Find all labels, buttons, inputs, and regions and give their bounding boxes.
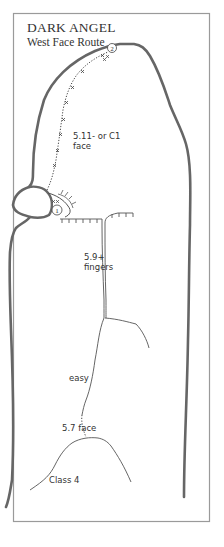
route-title: DARK ANGEL (27, 20, 116, 35)
route-subtitle: West Face Route (27, 35, 105, 49)
pitch-number-2: 2 (110, 45, 113, 52)
easy-ramp (82, 318, 104, 415)
topo-diagram: 2 1 (0, 0, 224, 547)
pitch-number-1: 1 (55, 207, 59, 215)
grade-crack-line1: 5.9+ (84, 252, 113, 262)
route-pitch-2 (47, 52, 108, 190)
roof-left (60, 219, 102, 226)
grade-label-easy: easy (69, 373, 89, 383)
grade-label-crack: 5.9+ fingers (84, 252, 113, 272)
roof-right (105, 213, 133, 223)
grade-p2-line1: 5.11- or C1 (73, 131, 120, 141)
grade-p2-line2: face (73, 141, 120, 151)
rock-outline (6, 44, 190, 507)
middle-flake (105, 318, 149, 348)
grade-label-class-4: Class 4 (49, 475, 79, 485)
belay-ledge-outline (29, 187, 52, 218)
grade-crack-line2: fingers (84, 262, 113, 272)
grade-label-pitch2: 5.11- or C1 face (73, 131, 120, 151)
lower-hump (30, 438, 131, 490)
grade-label-5-7-face: 5.7 face (62, 423, 96, 433)
finger-crack (102, 226, 104, 318)
